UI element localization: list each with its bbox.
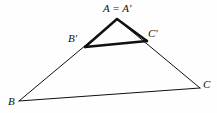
geometry-figure: A = A′ B′ C′ B C [0,0,217,113]
vertex-label-c: C [203,79,210,90]
segment-b-prime-c-prime [85,41,147,47]
segment-a-c-prime [117,19,147,41]
segment-b-c [19,88,200,101]
vertex-label-a: A = A′ [103,3,131,14]
segment-a-b-prime [85,19,117,47]
vertex-label-b-prime: B′ [68,33,77,44]
vertex-label-c-prime: C′ [148,28,158,39]
triangle-diagram-svg [0,0,217,113]
vertex-label-b: B [8,96,15,107]
